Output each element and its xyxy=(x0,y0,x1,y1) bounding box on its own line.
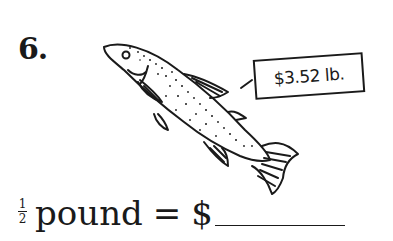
fraction-numerator: 1 xyxy=(19,198,27,211)
price-tag: $3.52 lb. xyxy=(253,52,366,100)
answer-blank[interactable] xyxy=(215,224,345,226)
question-line: 1 2 pound = $ xyxy=(18,196,345,230)
unit-label: pound xyxy=(35,196,143,230)
fraction-denominator: 2 xyxy=(19,213,27,226)
currency-symbol: $ xyxy=(191,196,213,230)
price-tag-label: $3.52 lb. xyxy=(273,64,345,89)
equals-sign: = xyxy=(153,196,182,230)
fraction-one-half: 1 2 xyxy=(18,198,27,226)
